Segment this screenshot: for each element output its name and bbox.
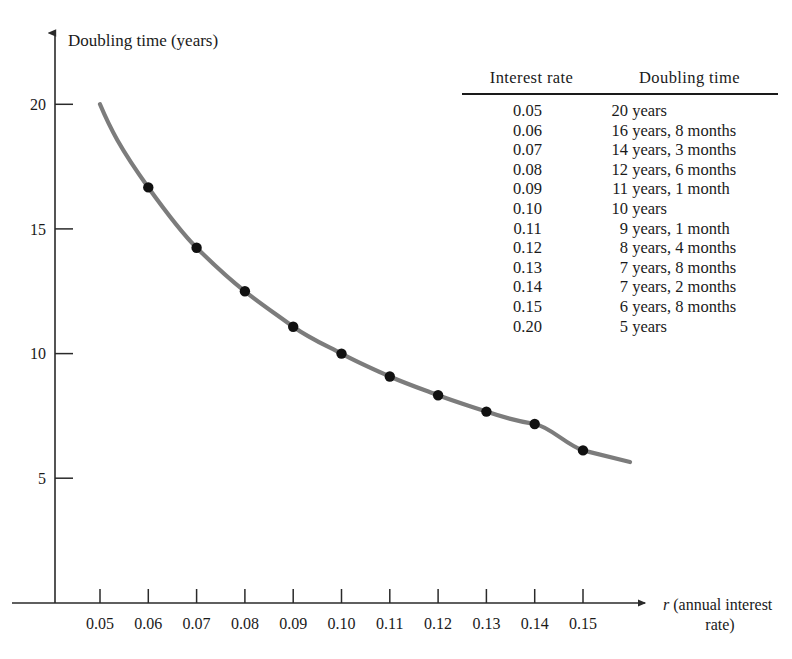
cell-doubling-time: 7 years, 2 months xyxy=(601,278,778,298)
cell-doubling-time-text: years, 1 month xyxy=(632,179,730,198)
data-point xyxy=(433,390,443,400)
cell-doubling-time-text: years, 3 months xyxy=(632,140,736,159)
table-row: 0.205 years xyxy=(462,317,778,337)
cell-doubling-time: 20 years xyxy=(601,95,778,121)
x-tick-label-4: 0.09 xyxy=(279,615,307,632)
y-tick-label-15: 15 xyxy=(30,221,46,238)
data-point xyxy=(578,445,588,455)
table-row: 0.0520 years xyxy=(462,95,778,121)
y-tick-label-20: 20 xyxy=(30,96,46,113)
cell-interest-rate: 0.10 xyxy=(462,199,601,219)
table-row: 0.156 years, 8 months xyxy=(462,297,778,317)
cell-doubling-time-years: 7 xyxy=(611,278,628,297)
cell-interest-rate: 0.13 xyxy=(462,258,601,278)
cell-doubling-time-years: 6 xyxy=(611,298,628,317)
cell-doubling-time-text: years xyxy=(632,317,667,336)
cell-interest-rate: 0.12 xyxy=(462,239,601,259)
cell-doubling-time-years: 16 xyxy=(611,122,628,141)
cell-doubling-time-text: years, 4 months xyxy=(632,238,736,257)
cell-doubling-time: 9 years, 1 month xyxy=(601,219,778,239)
doubling-time-table: Interest rate Doubling time 0.0520 years… xyxy=(462,68,778,337)
cell-doubling-time-text: years xyxy=(632,199,667,218)
figure-page: 20 15 10 5 Doubling time (years) 0.05 0.… xyxy=(0,0,792,659)
cell-interest-rate: 0.14 xyxy=(462,278,601,298)
cell-doubling-time: 10 years xyxy=(601,199,778,219)
cell-interest-rate: 0.11 xyxy=(462,219,601,239)
cell-doubling-time-text: years, 1 month xyxy=(632,219,730,238)
y-tick-marks xyxy=(55,104,73,478)
y-tick-label-5: 5 xyxy=(38,470,46,487)
x-tick-label-7: 0.12 xyxy=(424,615,452,632)
x-tick-label-8: 0.13 xyxy=(472,615,500,632)
table-header-row: Interest rate Doubling time xyxy=(462,68,778,92)
table-row: 0.1010 years xyxy=(462,199,778,219)
x-tick-label-9: 0.14 xyxy=(521,615,549,632)
x-tick-label-2: 0.07 xyxy=(183,615,211,632)
cell-interest-rate: 0.08 xyxy=(462,160,601,180)
table-row: 0.0812 years, 6 months xyxy=(462,160,778,180)
data-point xyxy=(385,371,395,381)
cell-doubling-time-years: 14 xyxy=(611,141,628,160)
data-point xyxy=(336,348,346,358)
cell-doubling-time: 5 years xyxy=(601,317,778,337)
table-row: 0.119 years, 1 month xyxy=(462,219,778,239)
x-tick-label-0: 0.05 xyxy=(86,615,114,632)
table-row: 0.0911 years, 1 month xyxy=(462,180,778,200)
cell-doubling-time-text: years xyxy=(632,101,667,120)
cell-doubling-time-years: 20 xyxy=(611,102,628,121)
cell-doubling-time-years: 12 xyxy=(611,161,628,180)
x-axis-title-line1: r (annual interest xyxy=(663,596,773,614)
y-tick-label-10: 10 xyxy=(30,345,46,362)
cell-interest-rate: 0.06 xyxy=(462,121,601,141)
table-row: 0.0714 years, 3 months xyxy=(462,141,778,161)
cell-doubling-time-text: years, 8 months xyxy=(632,121,736,140)
cell-doubling-time-years: 8 xyxy=(611,239,628,258)
x-tick-marks xyxy=(100,589,583,603)
cell-doubling-time: 12 years, 6 months xyxy=(601,160,778,180)
cell-doubling-time-years: 5 xyxy=(611,318,628,337)
cell-interest-rate: 0.09 xyxy=(462,180,601,200)
cell-doubling-time-text: years, 8 months xyxy=(632,297,736,316)
cell-doubling-time: 14 years, 3 months xyxy=(601,141,778,161)
cell-doubling-time: 11 years, 1 month xyxy=(601,180,778,200)
cell-doubling-time-text: years, 8 months xyxy=(632,258,736,277)
column-header-doubling-time: Doubling time xyxy=(601,68,778,92)
x-tick-label-3: 0.08 xyxy=(231,615,259,632)
cell-interest-rate: 0.15 xyxy=(462,297,601,317)
data-point xyxy=(481,406,491,416)
data-point xyxy=(530,419,540,429)
data-point xyxy=(240,286,250,296)
table-row: 0.0616 years, 8 months xyxy=(462,121,778,141)
table-head: Interest rate Doubling time xyxy=(462,68,778,95)
table: Interest rate Doubling time 0.0520 years… xyxy=(462,68,778,337)
x-tick-label-1: 0.06 xyxy=(134,615,162,632)
table-row: 0.128 years, 4 months xyxy=(462,239,778,259)
cell-doubling-time: 16 years, 8 months xyxy=(601,121,778,141)
x-axis-title-line2: rate) xyxy=(705,616,734,634)
y-axis-title: Doubling time (years) xyxy=(68,31,218,50)
cell-doubling-time-text: years, 2 months xyxy=(632,277,736,296)
cell-doubling-time-years: 10 xyxy=(611,200,628,219)
table-row: 0.147 years, 2 months xyxy=(462,278,778,298)
x-tick-label-6: 0.11 xyxy=(376,615,403,632)
cell-doubling-time-years: 7 xyxy=(611,259,628,278)
cell-interest-rate: 0.05 xyxy=(462,95,601,121)
cell-doubling-time: 8 years, 4 months xyxy=(601,239,778,259)
cell-doubling-time-years: 9 xyxy=(611,220,628,239)
x-tick-label-10: 0.15 xyxy=(569,615,597,632)
x-tick-label-5: 0.10 xyxy=(328,615,356,632)
data-point xyxy=(191,243,201,253)
x-axis-title-rest: (annual interest xyxy=(673,596,773,614)
data-point xyxy=(143,182,153,192)
cell-doubling-time-years: 11 xyxy=(611,180,628,199)
cell-doubling-time-text: years, 6 months xyxy=(632,160,736,179)
table-row: 0.137 years, 8 months xyxy=(462,258,778,278)
table-body: 0.0520 years0.0616 years, 8 months0.0714… xyxy=(462,95,778,337)
data-point xyxy=(288,322,298,332)
cell-doubling-time: 7 years, 8 months xyxy=(601,258,778,278)
column-header-interest-rate: Interest rate xyxy=(462,68,601,92)
cell-interest-rate: 0.07 xyxy=(462,141,601,161)
cell-doubling-time: 6 years, 8 months xyxy=(601,297,778,317)
cell-interest-rate: 0.20 xyxy=(462,317,601,337)
